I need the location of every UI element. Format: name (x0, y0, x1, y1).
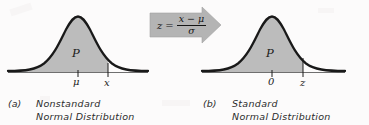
formula-lhs: z (157, 20, 162, 31)
formula-numerator: x − μ (177, 14, 207, 24)
formula-fraction: x − μ σ (177, 14, 207, 36)
panel-tag-a: (a) (8, 98, 21, 109)
shaded-area-right (202, 17, 345, 72)
panel-caption-b-line1: Standard (232, 98, 278, 109)
normal-distribution-figure: P μ x (a) Nonstandard Normal Distributio… (0, 0, 369, 125)
axis-tick-label-mu: μ (73, 76, 80, 87)
probability-label-right: P (266, 46, 274, 60)
probability-label-left: P (72, 46, 80, 60)
panel-tag-b: (b) (203, 98, 216, 109)
formula-equals: = (165, 20, 173, 31)
formula-denominator: σ (186, 26, 197, 36)
axis-tick-label-zero: 0 (268, 76, 274, 87)
axis-tick-label-z: z (300, 77, 305, 88)
panel-caption-a-line2: Normal Distribution (36, 111, 135, 122)
axis-tick-label-x: x (104, 77, 110, 88)
shaded-area-left (8, 17, 148, 72)
z-score-formula: z = x − μ σ (157, 14, 205, 36)
panel-caption-b-line2: Normal Distribution (232, 111, 331, 122)
panel-caption-a-line1: Nonstandard (36, 98, 101, 109)
